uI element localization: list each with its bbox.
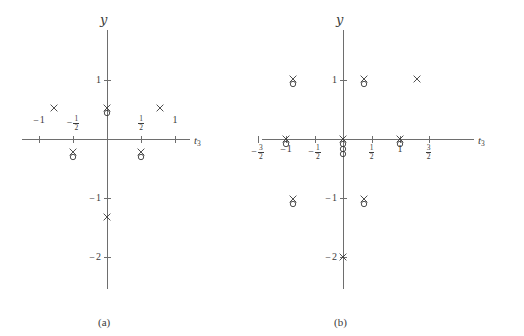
panel-a-x-axis <box>22 139 190 140</box>
pole-cross-icon <box>411 73 423 85</box>
panel-b-xtick <box>315 136 316 143</box>
panel-b: t3 y (b) −32−1−12121321−1−2 <box>262 0 524 336</box>
panel-b-y-axis-label: y <box>336 12 343 27</box>
panel-b-x-axis <box>262 139 474 140</box>
zero-circle-icon <box>287 78 299 90</box>
panel-a-ytick-label: −1 <box>75 193 101 204</box>
panel-a-ytick <box>104 257 111 258</box>
panel-b-ytick-label: −1 <box>311 193 337 204</box>
panel-b-xtick <box>372 136 373 143</box>
zero-circle-icon <box>358 78 370 90</box>
panel-a-caption: (a) <box>98 316 110 328</box>
panel-b-x-axis-label: t3 <box>478 134 485 148</box>
panel-a-xtick-label: −12 <box>58 115 88 132</box>
zero-circle-icon <box>394 138 406 150</box>
zero-circle-icon <box>280 138 292 150</box>
zero-circle-icon <box>337 148 349 160</box>
panel-a-xtick-label: 12 <box>126 115 156 132</box>
panel-a-y-axis-label: y <box>100 12 107 27</box>
panel-a-xtick <box>39 136 40 143</box>
pole-cross-icon <box>337 251 349 263</box>
panel-a: t3 y (a) −1−121211−1−2 <box>0 0 262 336</box>
zero-circle-icon <box>287 198 299 210</box>
panel-b-ytick <box>340 198 347 199</box>
pole-cross-icon <box>101 211 113 223</box>
zero-circle-icon <box>67 151 79 163</box>
panel-a-y-axis <box>107 30 108 289</box>
zero-circle-icon <box>358 198 370 210</box>
panel-a-x-axis-label: t3 <box>194 134 201 148</box>
panel-a-ytick <box>104 198 111 199</box>
panel-b-xtick-label: 12 <box>357 144 387 161</box>
panel-a-ytick <box>104 80 111 81</box>
panel-a-xtick <box>175 136 176 143</box>
panel-a-xtick-label: 1 <box>160 115 190 125</box>
panel-a-ytick-label: 1 <box>75 75 101 85</box>
panel-a-xtick <box>73 136 74 143</box>
panel-b-xtick-label: −12 <box>300 144 330 161</box>
panel-a-xtick <box>141 136 142 143</box>
panel-b-xtick <box>258 136 259 143</box>
pole-cross-icon <box>48 102 60 114</box>
panel-b-ytick <box>340 80 347 81</box>
panel-b-xtick <box>429 136 430 143</box>
panel-b-ytick-label: 1 <box>311 75 337 85</box>
panel-b-xtick-label: 32 <box>414 144 444 161</box>
pole-cross-icon <box>154 102 166 114</box>
panel-b-ytick-label: −2 <box>311 252 337 263</box>
panel-b-caption: (b) <box>334 316 347 328</box>
zero-circle-icon <box>101 107 113 119</box>
panel-b-xtick-label: −32 <box>243 144 273 161</box>
panel-a-ytick-label: −2 <box>75 252 101 263</box>
figure-pole-zero-pair: t3 y (a) −1−121211−1−2 t3 y (b) −32−1−12… <box>0 0 524 336</box>
panel-a-xtick-label: −1 <box>24 115 54 126</box>
zero-circle-icon <box>135 151 147 163</box>
